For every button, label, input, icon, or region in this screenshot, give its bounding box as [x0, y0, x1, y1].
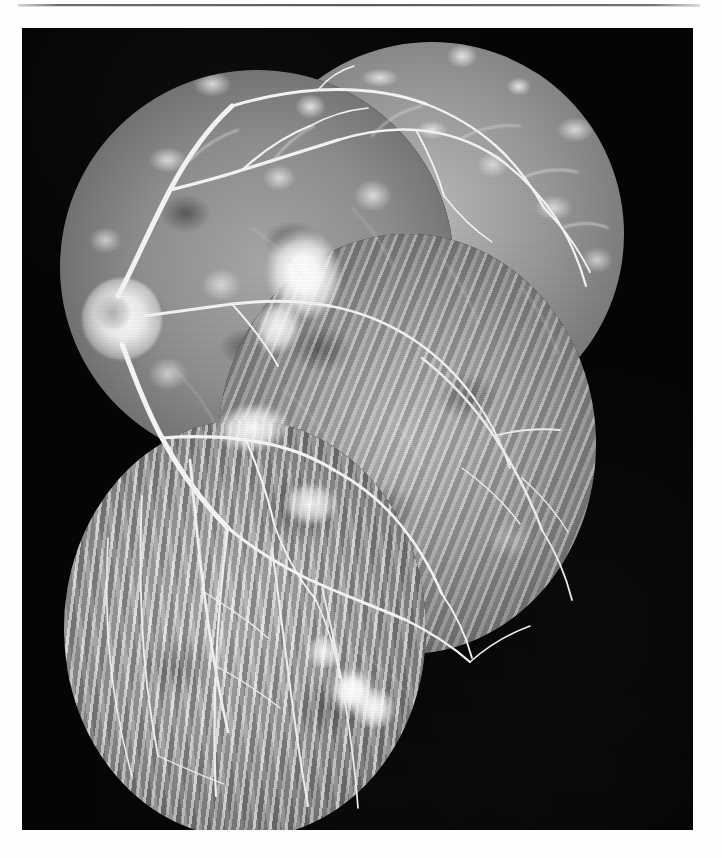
header-rule-shadow [18, 6, 700, 7]
scanned-page [0, 0, 722, 858]
angiogram-montage [22, 28, 693, 830]
fundus-frame-inferior [64, 420, 426, 830]
figure-plate [22, 28, 693, 830]
fundus-frame-image [64, 420, 426, 830]
choroidal-streaks [64, 420, 426, 830]
